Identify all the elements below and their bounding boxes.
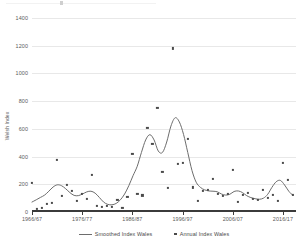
y-axis-tick-label: 0 bbox=[25, 209, 28, 215]
gridline bbox=[32, 212, 296, 213]
plot-area: 0200400600800100012001400 1966/671976/77… bbox=[32, 18, 296, 212]
line-swatch-icon bbox=[79, 234, 92, 235]
scatter-point bbox=[197, 200, 199, 202]
scatter-point bbox=[151, 143, 153, 145]
y-axis-title: Welsh Index bbox=[4, 111, 10, 140]
scatter-point bbox=[106, 205, 108, 207]
scatter-point bbox=[81, 193, 83, 195]
scatter-point bbox=[146, 127, 148, 129]
y-axis-tick-label: 200 bbox=[19, 181, 28, 187]
x-axis-tick-label: 1966/67 bbox=[22, 216, 42, 222]
legend-item-annual[interactable]: Annual Index Wales bbox=[174, 231, 229, 237]
smoothed-index-line bbox=[32, 18, 296, 212]
x-axis-line bbox=[32, 210, 296, 212]
x-axis-tick-mark bbox=[82, 212, 83, 215]
scatter-point bbox=[287, 179, 289, 181]
scatter-point bbox=[176, 163, 178, 165]
scatter-point bbox=[222, 195, 224, 197]
scatter-point bbox=[86, 198, 88, 200]
scatter-point bbox=[166, 187, 168, 189]
scatter-point bbox=[192, 186, 194, 188]
scatter-point bbox=[237, 201, 239, 203]
scatter-point bbox=[126, 196, 128, 198]
dot-swatch-icon bbox=[174, 233, 176, 235]
x-axis-tick-mark bbox=[32, 212, 33, 215]
scatter-point bbox=[96, 205, 98, 207]
y-axis-tick-label: 600 bbox=[19, 126, 28, 132]
scatter-point bbox=[186, 138, 188, 140]
x-axis-tick-label: 2006/07 bbox=[223, 216, 243, 222]
y-axis-tick-label: 400 bbox=[19, 154, 28, 160]
scatter-point bbox=[267, 197, 269, 199]
scatter-point bbox=[272, 194, 274, 196]
scatter-point bbox=[207, 189, 209, 191]
scatter-point bbox=[61, 195, 63, 197]
scatter-point bbox=[242, 194, 244, 196]
legend-label-smoothed: Smoothed Index Wales bbox=[95, 231, 153, 237]
scatter-point bbox=[292, 194, 294, 196]
scatter-point bbox=[46, 203, 48, 205]
scatter-point bbox=[227, 193, 229, 195]
x-axis-tick-mark bbox=[132, 212, 133, 215]
legend-label-annual: Annual Index Wales bbox=[180, 231, 230, 237]
scatter-point bbox=[56, 159, 58, 161]
x-axis-tick-mark bbox=[283, 212, 284, 215]
y-axis-tick-label: 1400 bbox=[16, 15, 28, 21]
scatter-point bbox=[181, 162, 183, 164]
y-axis-tick-label: 1200 bbox=[16, 43, 28, 49]
x-axis-tick-label: 1996/97 bbox=[172, 216, 192, 222]
x-axis-tick-mark bbox=[183, 212, 184, 215]
scatter-point bbox=[141, 194, 143, 196]
legend-item-smoothed[interactable]: Smoothed Index Wales bbox=[79, 231, 153, 237]
scatter-point bbox=[76, 200, 78, 202]
scatter-point bbox=[101, 206, 103, 208]
scatter-point bbox=[136, 193, 138, 195]
scatter-point bbox=[257, 199, 259, 201]
scatter-point bbox=[247, 192, 249, 194]
scatter-point bbox=[171, 47, 173, 49]
top-partial-rule bbox=[6, 3, 156, 4]
scatter-point bbox=[51, 202, 53, 204]
chart-container: Welsh Index 0200400600800100012001400 19… bbox=[0, 0, 308, 251]
scatter-point bbox=[91, 174, 93, 176]
scatter-point bbox=[41, 207, 43, 209]
scatter-point bbox=[31, 182, 33, 184]
x-axis-tick-mark bbox=[233, 212, 234, 215]
y-axis-tick-label: 1000 bbox=[16, 70, 28, 76]
scatter-point bbox=[202, 190, 204, 192]
y-axis-tick-label: 800 bbox=[19, 98, 28, 104]
x-axis-tick-label: 2016/17 bbox=[273, 216, 293, 222]
scatter-point bbox=[212, 178, 214, 180]
scatter-point bbox=[156, 107, 158, 109]
scatter-point bbox=[66, 184, 68, 186]
scatter-point bbox=[121, 207, 123, 209]
scatter-point bbox=[217, 193, 219, 195]
scatter-point bbox=[71, 189, 73, 191]
chart-legend: Smoothed Index Wales Annual Index Wales bbox=[0, 228, 308, 240]
x-axis-tick-label: 1976/77 bbox=[72, 216, 92, 222]
scatter-point bbox=[282, 162, 284, 164]
scatter-point bbox=[131, 153, 133, 155]
scatter-point bbox=[161, 170, 163, 172]
scatter-point bbox=[277, 200, 279, 202]
scatter-point bbox=[252, 198, 254, 200]
scatter-point bbox=[111, 206, 113, 208]
scatter-point bbox=[116, 199, 118, 201]
top-partial-marker bbox=[60, 1, 63, 5]
scatter-point bbox=[262, 189, 264, 191]
top-partial-element bbox=[6, 1, 166, 8]
scatter-point bbox=[232, 169, 234, 171]
x-axis-tick-label: 1986/87 bbox=[122, 216, 142, 222]
